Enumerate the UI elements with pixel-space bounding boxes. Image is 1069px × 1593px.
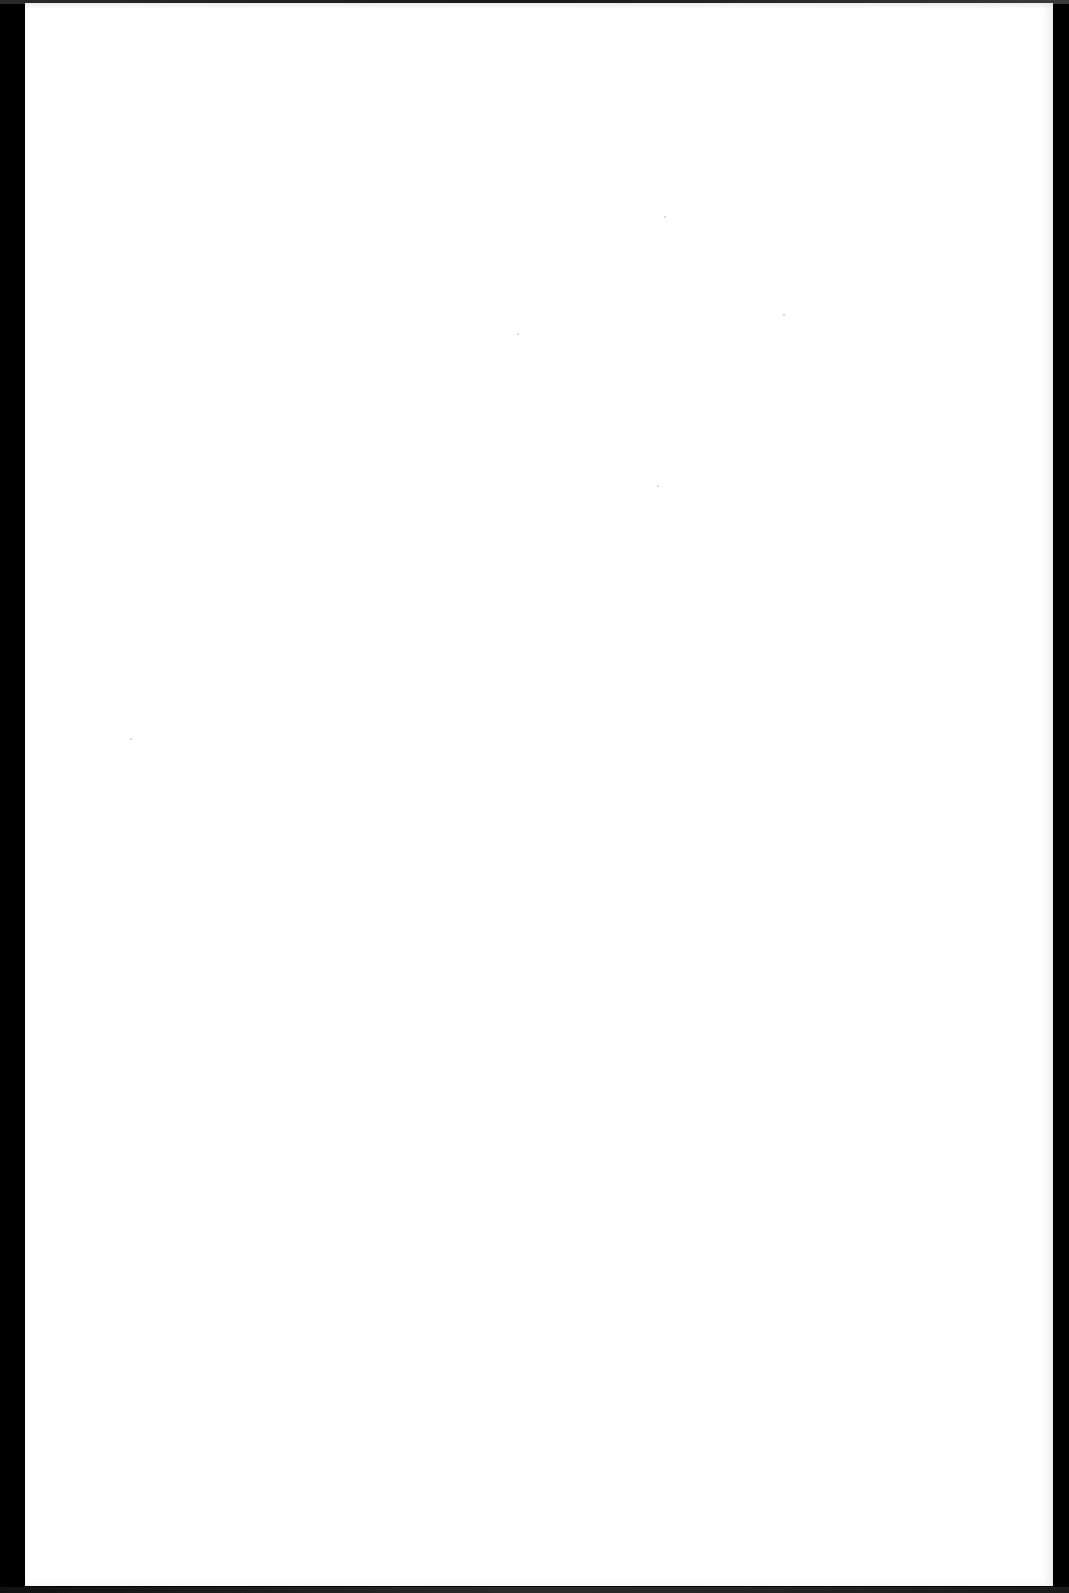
scan-speck — [664, 216, 666, 218]
scan-speck — [517, 333, 519, 335]
scan-speck — [130, 738, 132, 740]
scan-frame — [0, 0, 1069, 1593]
page-content — [85, 63, 993, 1526]
scan-bottom-edge — [0, 1587, 1069, 1593]
scan-speck — [783, 314, 785, 316]
blank-page — [25, 3, 1053, 1586]
scan-speck — [657, 485, 659, 487]
